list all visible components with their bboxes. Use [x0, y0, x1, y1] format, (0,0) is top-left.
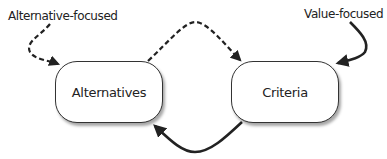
value-focused-label: Value-focused: [304, 7, 383, 21]
criteria-node: Criteria: [231, 61, 339, 123]
edge-altfocused-to-alternatives: [29, 24, 58, 64]
edge-criteria-to-alternatives: [155, 122, 242, 152]
alternative-focused-label: Alternative-focused: [8, 9, 118, 23]
criteria-node-label: Criteria: [262, 85, 308, 100]
alternatives-node: Alternatives: [55, 61, 163, 123]
edge-valuefocused-to-criteria: [338, 22, 366, 63]
alternatives-node-label: Alternatives: [72, 85, 147, 100]
edge-alternatives-to-criteria: [148, 22, 240, 61]
